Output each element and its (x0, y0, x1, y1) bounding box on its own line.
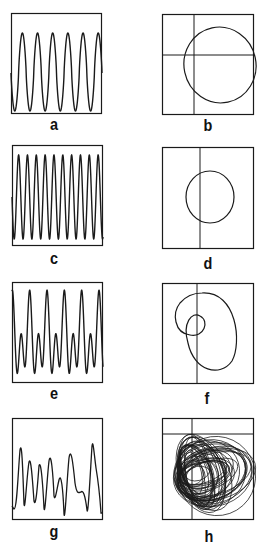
panel-g (12, 418, 103, 520)
panel-label-d: d (200, 255, 217, 272)
phase-portrait-d (162, 147, 254, 249)
panel-label-b: b (200, 117, 217, 134)
panel-label-f: f (199, 390, 216, 407)
panel-label-e: e (46, 385, 63, 402)
time-series-plot-a (11, 13, 102, 114)
panel-h (162, 418, 254, 520)
panel-a (11, 13, 102, 114)
panel-d (162, 147, 254, 249)
phase-portrait-f (162, 283, 254, 384)
panel-f (162, 283, 254, 384)
panel-b (162, 14, 254, 115)
panel-e (12, 282, 103, 383)
phase-portrait-b (162, 14, 254, 115)
time-series-plot-c (12, 145, 103, 246)
time-series-plot-g (12, 418, 103, 520)
panel-label-a: a (46, 116, 63, 133)
panel-label-h: h (201, 528, 218, 545)
phase-portrait-h (162, 418, 254, 520)
time-series-plot-e (12, 282, 103, 383)
panel-label-c: c (46, 250, 63, 267)
panel-label-g: g (46, 523, 63, 540)
panel-c (12, 145, 103, 246)
